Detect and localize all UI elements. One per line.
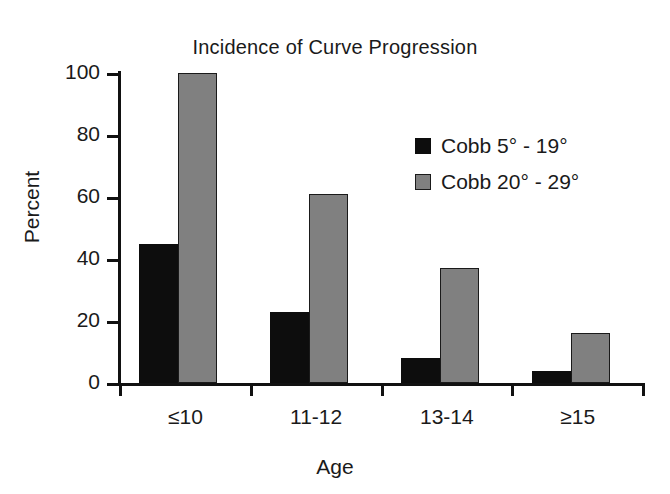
x-axis-tick [381, 383, 384, 396]
bar [139, 244, 178, 384]
bar [401, 358, 440, 383]
bar [309, 194, 348, 383]
bar [178, 73, 217, 383]
y-axis-tick: 60 [107, 197, 119, 200]
y-axis-tick-label: 60 [77, 184, 100, 208]
legend-item: Cobb 5° - 19° [415, 128, 579, 164]
bar [440, 268, 479, 383]
x-axis-title: Age [0, 455, 670, 479]
y-axis-tick-label: 100 [65, 60, 100, 84]
y-axis-tick: 40 [107, 259, 119, 262]
legend-item-label: Cobb 5° - 19° [441, 134, 568, 158]
y-axis-line [118, 71, 121, 385]
plot-area: 020406080100 ≤1011-1213-14≥15 [120, 73, 643, 383]
y-axis-title: Percent [20, 147, 44, 267]
x-axis-tick [119, 383, 122, 396]
y-axis-tick: 100 [107, 73, 119, 76]
x-axis-tick-label: 13-14 [420, 405, 474, 429]
gray-square-swatch [415, 174, 431, 190]
x-axis-tick [250, 383, 253, 396]
y-axis-tick-label: 0 [88, 370, 100, 394]
y-axis-tick: 0 [107, 383, 119, 386]
y-axis-tick-label: 20 [77, 308, 100, 332]
x-axis-tick-label: ≥15 [560, 405, 595, 429]
x-axis-tick [642, 383, 645, 396]
x-axis-tick [511, 383, 514, 396]
y-axis-tick: 20 [107, 321, 119, 324]
chart-figure: Incidence of Curve Progression Percent A… [0, 0, 670, 494]
y-axis-tick-label: 40 [77, 246, 100, 270]
x-axis-tick-label: ≤10 [168, 405, 203, 429]
bar [270, 312, 309, 383]
chart-title: Incidence of Curve Progression [0, 36, 670, 59]
chart-legend: Cobb 5° - 19°Cobb 20° - 29° [415, 128, 579, 200]
legend-item: Cobb 20° - 29° [415, 164, 579, 200]
legend-item-label: Cobb 20° - 29° [441, 170, 579, 194]
y-axis-tick-label: 80 [77, 122, 100, 146]
x-axis-tick-label: 11-12 [290, 405, 342, 429]
black-square-swatch [415, 138, 431, 154]
y-axis-tick: 80 [107, 135, 119, 138]
bar [571, 333, 610, 383]
bar [532, 371, 571, 383]
